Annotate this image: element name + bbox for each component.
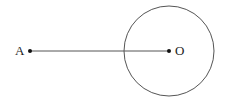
geometry-figure: A O — [0, 0, 233, 105]
point-o-label: O — [175, 44, 184, 57]
figure-canvas — [0, 0, 233, 105]
point-o-marker — [167, 49, 171, 53]
point-a-label: A — [15, 44, 24, 57]
point-a-marker — [28, 49, 32, 53]
figure-background — [0, 0, 233, 105]
